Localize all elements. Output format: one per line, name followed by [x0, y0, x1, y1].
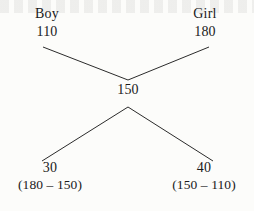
bottom-right-expression: (150 – 110) — [156, 178, 252, 193]
bottom-right-value: 40 — [156, 160, 252, 175]
boy-label: Boy — [8, 6, 86, 21]
node-bottom-right: 40 (150 – 110) — [156, 160, 252, 193]
girl-label: Girl — [166, 6, 244, 21]
girl-value: 180 — [166, 24, 244, 39]
line-boy-to-center — [43, 47, 128, 80]
bottom-left-value: 30 — [2, 160, 98, 175]
line-center-to-bottom-left — [42, 107, 128, 161]
node-center: 150 — [99, 82, 157, 97]
center-value: 150 — [99, 82, 157, 97]
node-bottom-left: 30 (180 – 150) — [2, 160, 98, 193]
line-center-to-bottom-right — [128, 107, 213, 161]
alligation-diagram: Boy 110 Girl 180 150 30 (180 – 150) 40 (… — [0, 0, 254, 211]
node-top-left: Boy 110 — [8, 6, 86, 39]
line-girl-to-center — [128, 47, 209, 80]
boy-value: 110 — [8, 24, 86, 39]
bottom-left-expression: (180 – 150) — [2, 178, 98, 193]
node-top-right: Girl 180 — [166, 6, 244, 39]
